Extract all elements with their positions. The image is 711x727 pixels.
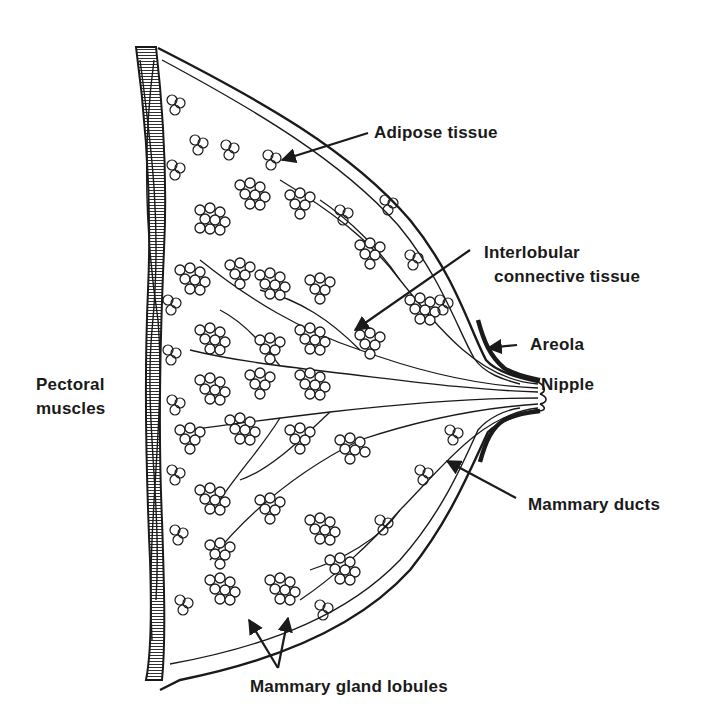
arrow-adipose	[282, 133, 368, 160]
label-pectoral-line2: muscles	[36, 398, 105, 419]
arrow-ducts	[447, 461, 516, 498]
diagram-artwork	[0, 0, 711, 727]
arrow-lobule-2	[278, 618, 288, 668]
label-interlobular-line1: Interlobular	[484, 242, 580, 263]
label-mammary-gland-lobules: Mammary gland lobules	[250, 676, 448, 697]
label-mammary-ducts: Mammary ducts	[528, 494, 660, 515]
arrow-areola	[488, 345, 517, 348]
label-areola: Areola	[530, 334, 584, 355]
label-nipple: Nipple	[541, 374, 594, 395]
label-interlobular-line2: connective tissue	[494, 266, 640, 287]
pectoral-muscle-band	[136, 47, 165, 680]
label-adipose-tissue: Adipose tissue	[374, 122, 498, 143]
gland-lobules	[175, 178, 440, 605]
label-pectoral-line1: Pectoral	[36, 374, 105, 395]
breast-anatomy-diagram: Adipose tissue Interlobular connective t…	[0, 0, 711, 727]
